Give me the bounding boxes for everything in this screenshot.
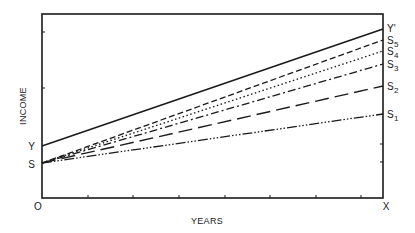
y-end-label: Y' (387, 23, 396, 34)
series-s3-line (42, 64, 383, 163)
s3-end-label: S 3 (387, 59, 399, 73)
svg-text:S: S (387, 46, 394, 57)
svg-text:2: 2 (394, 86, 399, 95)
s1-end-label: S 1 (387, 109, 399, 123)
y-axis-label: INCOME (18, 87, 28, 125)
series-y-line (42, 29, 383, 146)
series-s4-line (42, 51, 383, 163)
y-axis-ticks (42, 32, 383, 162)
x-end-label: X (383, 201, 390, 212)
plot-frame (42, 14, 383, 198)
svg-text:S: S (387, 81, 394, 92)
income-chart: INCOME YEARS O X Y S Y' S 5 S 4 S 3 S 2 … (0, 0, 415, 233)
svg-text:S: S (387, 59, 394, 70)
svg-text:S: S (387, 35, 394, 46)
origin-label: O (34, 201, 42, 212)
s2-end-label: S 2 (387, 81, 399, 95)
svg-text:1: 1 (394, 114, 399, 123)
series-s2-line (42, 86, 383, 163)
svg-text:S: S (387, 109, 394, 120)
y-start-label: Y (28, 141, 35, 152)
svg-text:5: 5 (394, 40, 399, 49)
s-start-label: S (28, 159, 35, 170)
series-s1-line (42, 114, 383, 163)
svg-text:4: 4 (394, 51, 399, 60)
series-s5-line (42, 40, 383, 163)
x-axis-label: YEARS (191, 216, 223, 226)
svg-text:3: 3 (394, 64, 399, 73)
